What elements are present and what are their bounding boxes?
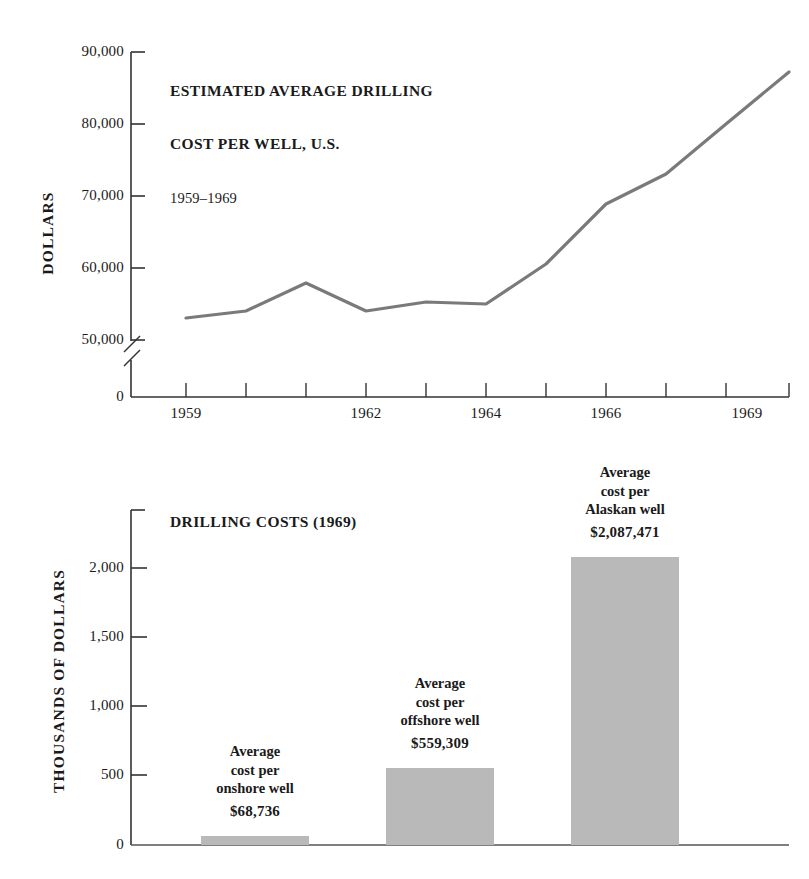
bar-annotation-alaskan-amount: $2,087,471 xyxy=(545,523,705,542)
line-chart-ytick-label-90000: 90,000 xyxy=(42,43,124,60)
line-chart-title-line3: 1959–1969 xyxy=(170,190,433,207)
bar-annotation-onshore-line1: Average xyxy=(230,743,280,759)
line-chart-title-line2: COST PER WELL, U.S. xyxy=(170,135,433,153)
line-chart-xtick-label-1969: 1969 xyxy=(707,405,787,422)
bar-annotation-offshore-line1: Average xyxy=(415,675,465,691)
bar-chart-ytick-label-1500: 1,500 xyxy=(42,628,124,645)
line-chart-xtick-label-1959: 1959 xyxy=(146,405,226,422)
line-chart-ytick-label-80000: 80,000 xyxy=(42,115,124,132)
line-chart-ytick-label-50000: 50,000 xyxy=(42,331,124,348)
bar-chart-ytick-label-500: 500 xyxy=(42,766,124,783)
bar-chart-ytick-label-2000: 2,000 xyxy=(42,559,124,576)
axis-break-slash-upper xyxy=(124,336,140,352)
line-chart-x-ticks xyxy=(186,383,789,397)
bar-annotation-alaskan: Average cost per Alaskan well $2,087,471 xyxy=(545,463,705,542)
line-chart-title: ESTIMATED AVERAGE DRILLING COST PER WELL… xyxy=(170,46,433,242)
line-chart-xtick-label-1962: 1962 xyxy=(326,405,406,422)
bar-annotation-alaskan-line2: cost per xyxy=(601,483,650,499)
figure-root: ESTIMATED AVERAGE DRILLING COST PER WELL… xyxy=(0,0,809,879)
bar-alaskan-well xyxy=(571,557,679,845)
line-chart-ytick-label-60000: 60,000 xyxy=(42,259,124,276)
bar-annotation-offshore-line2: cost per xyxy=(416,694,465,710)
line-chart-xtick-label-1966: 1966 xyxy=(566,405,646,422)
bar-onshore-well xyxy=(201,836,309,845)
bar-annotation-alaskan-line1: Average xyxy=(600,464,650,480)
bar-annotation-onshore: Average cost per onshore well $68,736 xyxy=(175,742,335,821)
bar-offshore-well xyxy=(386,768,494,845)
bar-annotation-offshore-line3: offshore well xyxy=(400,712,479,728)
line-chart-ytick-label-70000: 70,000 xyxy=(42,187,124,204)
bar-annotation-alaskan-line3: Alaskan well xyxy=(585,501,664,517)
line-chart-xtick-label-1964: 1964 xyxy=(446,405,526,422)
line-chart-title-line1: ESTIMATED AVERAGE DRILLING xyxy=(170,82,433,100)
bar-annotation-offshore: Average cost per offshore well $559,309 xyxy=(360,674,520,753)
axis-break-slash-lower xyxy=(124,350,140,366)
bar-chart-ytick-label-1000: 1,000 xyxy=(42,697,124,714)
bar-chart-ytick-label-0: 0 xyxy=(42,836,124,853)
bar-annotation-onshore-amount: $68,736 xyxy=(175,802,335,821)
line-chart-ytick-label-0: 0 xyxy=(42,388,124,405)
bar-annotation-onshore-line2: cost per xyxy=(231,762,280,778)
bar-annotation-onshore-line3: onshore well xyxy=(216,780,293,796)
bar-chart-title: DRILLING COSTS (1969) xyxy=(170,513,357,531)
bar-annotation-offshore-amount: $559,309 xyxy=(360,734,520,753)
